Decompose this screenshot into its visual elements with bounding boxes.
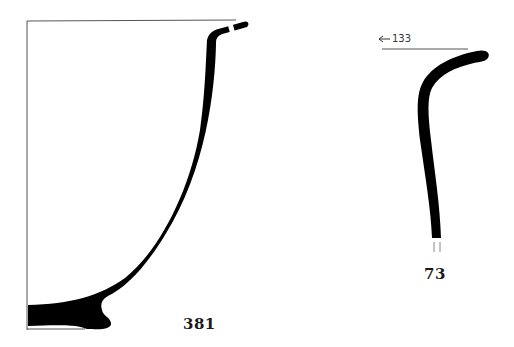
vessel-381-profile — [28, 21, 248, 329]
vessel-73-break-marks — [434, 242, 440, 252]
vessel-73-profile — [418, 50, 489, 238]
vessel-381-label: 381 — [183, 315, 216, 333]
arrow-left-icon — [379, 36, 390, 42]
vessel-381-reference-lines — [27, 20, 236, 330]
vessel-73-reference-number: 133 — [392, 33, 411, 44]
pottery-drawing — [0, 0, 514, 347]
vessel-73-label: 73 — [424, 265, 446, 283]
